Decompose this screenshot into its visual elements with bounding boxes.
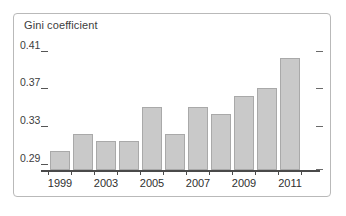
- x-axis-tick-mark-11: [301, 171, 302, 175]
- x-axis-tick-mark-10: [278, 171, 279, 175]
- chart-title: Gini coefficient: [24, 19, 98, 31]
- y-axis-label-3: 0.29: [20, 152, 40, 164]
- x-axis-tick-mark-9: [255, 171, 256, 175]
- x-axis-tick-mark-4: [140, 171, 141, 175]
- x-axis-tick-mark-8: [232, 171, 233, 175]
- x-axis-label-2007: 2007: [186, 177, 210, 189]
- y-axis-tick-0: [41, 51, 48, 52]
- y-axis-tick-2: [41, 126, 48, 127]
- x-axis-label-2005: 2005: [140, 177, 164, 189]
- bar-2006: [165, 134, 185, 170]
- x-axis-tick-mark-5: [163, 171, 164, 175]
- bar-2004: [119, 141, 139, 170]
- y-axis-label-0: 0.41: [20, 39, 40, 51]
- x-axis-tick-mark-1: [71, 171, 72, 175]
- y-axis-right-tick-1: [316, 88, 323, 89]
- x-axis-label-2009: 2009: [232, 177, 256, 189]
- x-axis-label-1999: 1999: [48, 177, 72, 189]
- bar-2001: [50, 151, 70, 170]
- bar-2002: [73, 134, 93, 170]
- bar-2003: [96, 141, 116, 170]
- bar-2008: [211, 114, 231, 170]
- bar-2009: [234, 96, 254, 170]
- y-axis-right-tick-2: [316, 126, 323, 127]
- chart-figure: Gini coefficient 0.41 0.37 0.33 0.29 199…: [0, 0, 346, 216]
- x-axis-label-2011: 2011: [278, 177, 302, 189]
- y-axis-label-2: 0.33: [20, 114, 40, 126]
- y-axis-tick-1: [41, 88, 48, 89]
- bar-2005: [142, 107, 162, 170]
- x-axis-tick-mark-0: [48, 171, 49, 175]
- y-axis-tick-3: [41, 164, 48, 165]
- x-axis-tick-mark-6: [186, 171, 187, 175]
- x-axis-label-2003: 2003: [94, 177, 118, 189]
- y-axis-right-tick-0: [316, 51, 323, 52]
- y-axis-label-1: 0.37: [20, 76, 40, 88]
- x-axis-tick-mark-7: [209, 171, 210, 175]
- x-axis-tick-mark-3: [117, 171, 118, 175]
- bar-2010: [257, 88, 277, 170]
- bar-2007: [188, 107, 208, 170]
- x-axis-tick-mark-2: [94, 171, 95, 175]
- bar-2011: [280, 58, 300, 170]
